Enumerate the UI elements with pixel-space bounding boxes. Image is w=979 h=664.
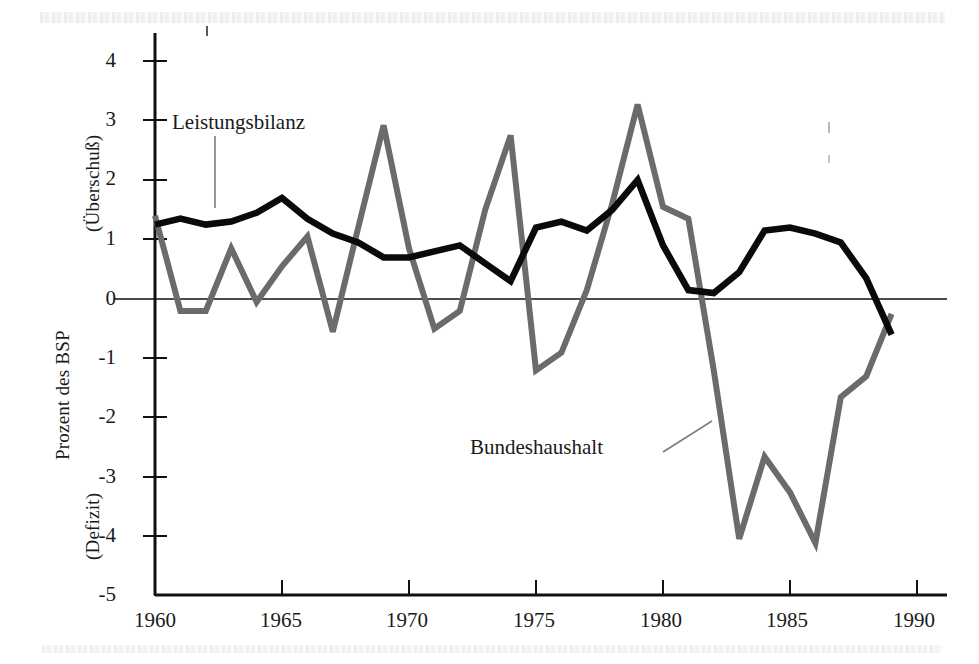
leader-line-bundeshaushalt: [663, 421, 712, 452]
series-line-leistungsbilanz: [155, 180, 892, 335]
series-line-bundeshaushalt: [155, 104, 892, 543]
chart-figure: (Überschuß) Prozent des BSP (Defizit) 4 …: [0, 0, 979, 664]
plot-area: [0, 0, 979, 664]
